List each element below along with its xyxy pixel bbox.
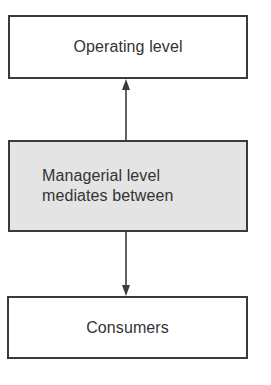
- operating-level-box: Operating level: [8, 15, 248, 79]
- consumers-box: Consumers: [7, 296, 248, 359]
- managerial-label-line-1: Managerial level: [42, 166, 173, 186]
- operating-level-label: Operating level: [73, 37, 182, 57]
- arrow-down-icon: [122, 232, 130, 296]
- managerial-label-line-2: mediates between: [42, 186, 173, 206]
- arrow-up-icon: [122, 79, 130, 140]
- consumers-label: Consumers: [86, 318, 169, 338]
- managerial-level-box: Managerial level mediates between: [8, 140, 248, 232]
- managerial-level-label: Managerial level mediates between: [42, 166, 173, 206]
